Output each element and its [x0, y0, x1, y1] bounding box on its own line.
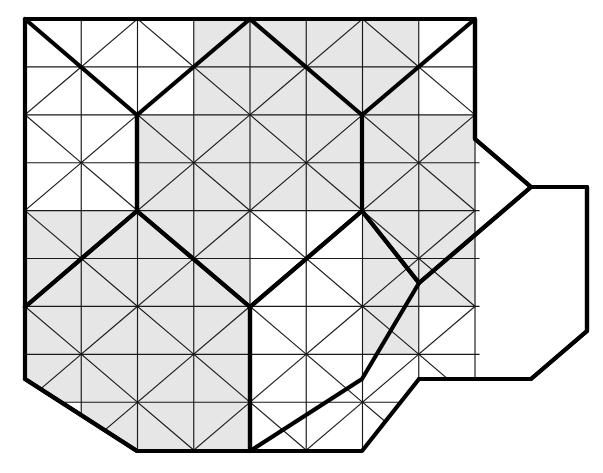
- diagram-canvas: Isometric triangular grid with bold hexa…: [0, 0, 603, 473]
- grid-line-diagonal: [419, 402, 475, 450]
- triangular-grid-figure: [0, 0, 603, 473]
- grid-cell: [419, 402, 476, 451]
